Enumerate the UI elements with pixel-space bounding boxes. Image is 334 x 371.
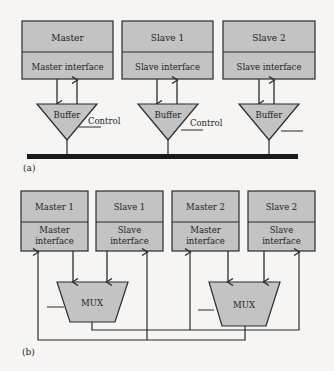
interface-label-line2: interface xyxy=(262,236,301,246)
block-slave-2: Slave 2 Slave interface xyxy=(223,21,315,79)
interface-label: Slave interface xyxy=(237,62,302,72)
block-master-2: Master 2 Master interface xyxy=(172,191,239,251)
block-master: Master Master interface xyxy=(22,21,113,79)
interface-label-line1: Slave xyxy=(118,225,141,235)
control-label: Control xyxy=(190,118,223,128)
buffer-label: Buffer xyxy=(155,110,183,120)
mux-label: MUX xyxy=(233,300,256,310)
buffer-2: Buffer Control xyxy=(138,104,223,155)
block-title: Master xyxy=(51,33,84,43)
block-title: Slave 2 xyxy=(252,33,285,43)
interface-label-line2: interface xyxy=(186,236,225,246)
part-b: Master 1 Master interface Slave 1 Slave … xyxy=(21,191,315,357)
interface-label: Master interface xyxy=(31,62,103,72)
interface-label: Slave interface xyxy=(135,62,200,72)
mux-label: MUX xyxy=(81,298,104,308)
interface-label-line1: Master xyxy=(39,225,71,235)
part-a: Master Master interface Slave 1 Slave in… xyxy=(22,21,315,173)
arrows-a xyxy=(57,79,274,104)
arrows-to-mux xyxy=(73,251,264,282)
buffer-label: Buffer xyxy=(54,110,82,120)
part-a-label: (a) xyxy=(23,163,35,173)
mux-1: MUX xyxy=(47,282,128,322)
block-slave-1b: Slave 1 Slave interface xyxy=(96,191,163,251)
buffer-1: Buffer Control xyxy=(37,104,121,155)
mux-2: MUX xyxy=(198,282,280,326)
interface-label-line2: interface xyxy=(110,236,149,246)
control-label: Control xyxy=(88,116,121,126)
buffer-label: Buffer xyxy=(256,110,284,120)
block-slave-1: Slave 1 Slave interface xyxy=(122,21,213,79)
block-title: Slave 1 xyxy=(114,202,146,212)
block-master-1: Master 1 Master interface xyxy=(21,191,88,251)
block-slave-2b: Slave 2 Slave interface xyxy=(248,191,315,251)
block-title: Slave 1 xyxy=(151,33,184,43)
shared-bus xyxy=(27,154,298,159)
part-b-label: (b) xyxy=(22,347,35,357)
block-title: Slave 2 xyxy=(266,202,298,212)
block-title: Master 1 xyxy=(35,202,74,212)
interface-label-line2: interface xyxy=(35,236,74,246)
bus-architecture-diagram: Master Master interface Slave 1 Slave in… xyxy=(0,0,334,371)
interface-label-line1: Master xyxy=(190,225,222,235)
block-title: Master 2 xyxy=(186,202,225,212)
interface-label-line1: Slave xyxy=(270,225,293,235)
buffer-3: Buffer xyxy=(239,104,303,155)
